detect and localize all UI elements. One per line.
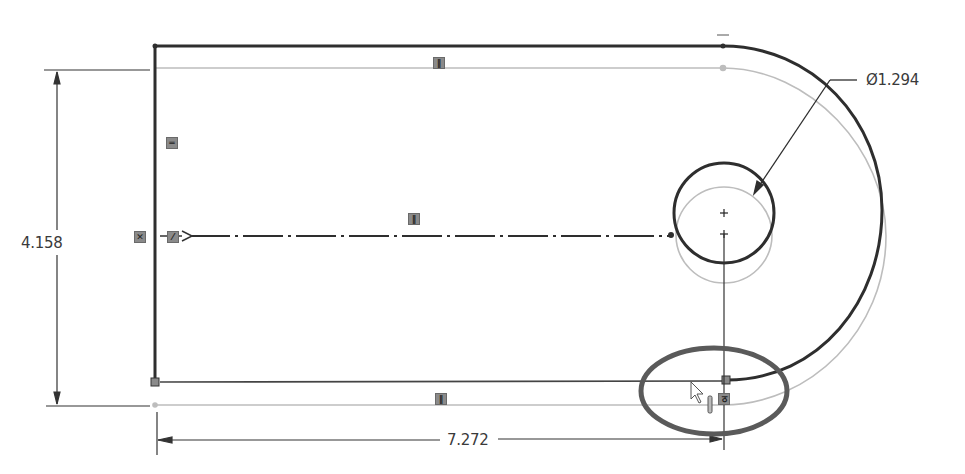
arrow-icon: [710, 436, 722, 442]
ghost-endpoint: [153, 403, 157, 407]
arrow-icon: [182, 231, 192, 241]
dimension-value-horizontal[interactable]: 7.272: [447, 432, 488, 448]
line-tool-icon: [708, 396, 712, 413]
dimension-value-vertical[interactable]: 4.158: [21, 235, 62, 251]
centerline-endpoint[interactable]: [668, 232, 674, 238]
ghost-endpoint: [721, 66, 726, 71]
arrow-icon: [158, 437, 172, 443]
collinear-relation-badge[interactable]: ⁄: [167, 231, 179, 243]
highlight-ellipse: [641, 348, 787, 434]
dimension-diameter[interactable]: [754, 80, 857, 194]
horizontal-relation-badge[interactable]: ‖: [435, 393, 447, 405]
horizontal-relation-badge[interactable]: ‖: [433, 57, 445, 69]
mouse-cursor-icon: [691, 382, 712, 413]
bottom-line[interactable]: [160, 381, 723, 382]
endpoint-top-left[interactable]: [153, 44, 158, 49]
leader-line: [755, 80, 830, 192]
endpoint-bottom-left[interactable]: [151, 378, 159, 386]
center-marks: [720, 209, 728, 238]
dimension-horizontal[interactable]: [157, 412, 722, 455]
vertical-relation-badge[interactable]: ═: [166, 137, 178, 149]
endpoint-bottom-right-selected[interactable]: [722, 376, 730, 384]
arrow-icon: [54, 392, 60, 404]
dimension-value-diameter[interactable]: Ø1.294: [866, 72, 919, 88]
sketch-profile[interactable]: [155, 46, 882, 382]
horizontal-relation-badge[interactable]: ‖: [408, 213, 420, 225]
endpoint-top-right[interactable]: [721, 44, 726, 49]
coincident-relation-badge[interactable]: ✕: [134, 231, 146, 243]
tangent-relation-badge[interactable]: ठ: [718, 393, 730, 405]
arrow-icon: [54, 72, 60, 84]
